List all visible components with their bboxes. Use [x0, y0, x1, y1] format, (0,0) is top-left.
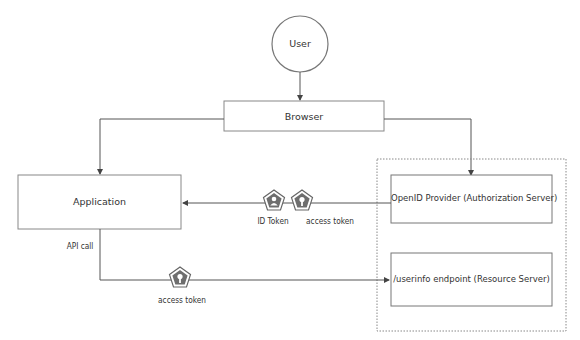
diagram-canvas — [0, 0, 580, 340]
openid-provider-label: OpenID Provider (Authorization Server) — [391, 193, 552, 203]
access-token-label: access token — [305, 216, 354, 226]
user-label: User — [270, 38, 330, 49]
id-token-icon — [264, 190, 285, 210]
api-call-label: API call — [64, 241, 97, 251]
access-token-key-icon-2 — [170, 267, 191, 287]
application-label: Application — [18, 196, 181, 207]
access-token-key-icon — [292, 190, 313, 210]
browser-label: Browser — [224, 111, 384, 122]
id-token-label: ID Token — [255, 216, 291, 226]
access-token-label-2: access token — [157, 295, 206, 305]
userinfo-endpoint-label: /userinfo endpoint (Resource Server) — [391, 274, 552, 284]
